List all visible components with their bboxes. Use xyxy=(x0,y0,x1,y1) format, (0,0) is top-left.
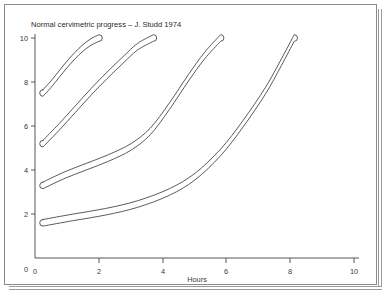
x-axis-label: Hours xyxy=(187,275,207,284)
x-tick-label-2: 2 xyxy=(97,267,101,276)
y-tick-label-6: 6 xyxy=(24,122,28,131)
chart-title: Normal cervimetric progress – J. Studd 1… xyxy=(31,20,181,29)
chart-axes xyxy=(35,34,359,258)
cervimetric-progress-chart: Normal cervimetric progress – J. Studd 1… xyxy=(4,4,377,285)
x-tick-label-0: 0 xyxy=(33,267,37,276)
x-tick-label-4: 4 xyxy=(161,267,165,276)
y-tick-label-8: 8 xyxy=(24,78,28,87)
screenshot-page: Normal cervimetric progress – J. Studd 1… xyxy=(0,0,387,297)
y-tick-label-10: 10 xyxy=(20,34,28,43)
x-tick-label-8: 8 xyxy=(288,267,292,276)
x-axis-ticks xyxy=(99,258,354,263)
x-tick-label-10: 10 xyxy=(350,267,358,276)
y-tick-label-2: 2 xyxy=(24,210,28,219)
series-band-4 xyxy=(40,35,298,226)
y-axis-tick-labels: 10 8 6 4 2 0 xyxy=(20,34,28,274)
x-tick-label-6: 6 xyxy=(224,267,228,276)
page-frame-shadow-right xyxy=(378,9,382,290)
y-axis-ticks xyxy=(31,38,35,214)
y-tick-label-4: 4 xyxy=(24,166,28,175)
series-band-3 xyxy=(40,35,224,189)
chart-series-layer xyxy=(40,35,298,226)
y-tick-label-0: 0 xyxy=(24,265,28,274)
series-band-2 xyxy=(40,35,157,147)
page-frame-shadow-bottom xyxy=(9,286,382,290)
